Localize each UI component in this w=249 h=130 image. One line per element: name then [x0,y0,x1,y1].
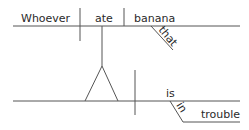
word-ate: ate [95,12,113,25]
word-banana: banana [134,12,175,25]
word-trouble: trouble [201,108,240,121]
word-in: in [173,100,189,115]
pedestal-triangle [85,66,118,101]
word-is: is [166,87,175,100]
word-that: that [156,24,181,50]
word-whoever: Whoever [21,12,71,25]
sentence-diagram: Whoever ate banana that is in trouble [0,0,249,130]
